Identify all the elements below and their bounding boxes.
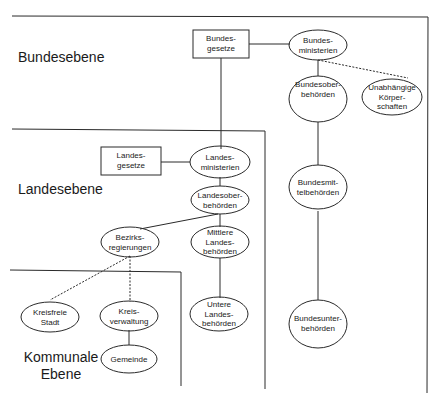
node-bezirksregierungen: Bezirks- regierungen [99, 233, 161, 252]
level-label-bund: Bundesebene [18, 49, 104, 66]
connector-ober-bezirk [140, 214, 218, 229]
node-untere-landesbehoerden: Untere Landes- behörden [189, 300, 249, 329]
node-landesgesetze: Landes- gesetze [101, 151, 161, 170]
node-bundesunterbehoerden: Bundesunter- behörden [285, 314, 351, 333]
node-mittlere-landesbehoerden: Mittlere Landes- behörden [190, 228, 250, 257]
level-label-land: Landesebene [18, 181, 103, 198]
node-bundesministerien: Bundes- ministerien [289, 36, 347, 55]
level-label-kommunal: Kommunale Ebene [18, 349, 104, 383]
node-kreisfreie-stadt: Kreisfreie Stadt [20, 308, 80, 327]
node-landesministerien: Landes- ministerien [190, 153, 250, 172]
connector-bezirk-kreisfrei [50, 256, 130, 300]
node-bundesmittelbehoerden: Bundesmit- telbehörden [287, 178, 349, 197]
connector-ministerien-koerperschaften [318, 60, 408, 78]
node-unabhaengige-koerperschaften: Unabhängige Körper- schaften [360, 83, 424, 112]
node-kreisverwaltung: Kreis- verwaltung [99, 307, 159, 326]
node-gemeinde: Gemeinde [99, 355, 159, 365]
node-bundesoberbehoerden: Bundesober- behörden [287, 80, 349, 99]
node-bundesgesetze: Bundes- gesetze [193, 34, 249, 53]
node-landesoberbehoerden: Landesober- behörden [188, 191, 252, 210]
